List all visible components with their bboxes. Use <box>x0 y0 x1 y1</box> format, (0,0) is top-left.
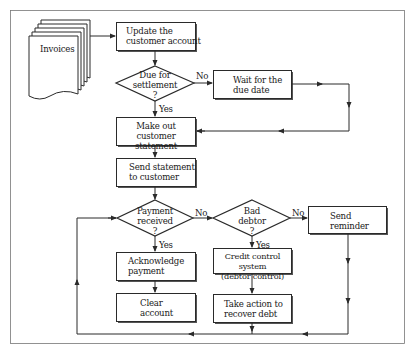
bad-debtor-label: Bad debtor ? <box>222 206 282 236</box>
payment-no-label: No <box>195 208 207 218</box>
make-statement-label: Make out customer statement <box>117 121 195 151</box>
credit-control-label: Credit control system (debtor control) <box>212 251 293 281</box>
invoices-label: Invoices <box>40 44 74 54</box>
bad-yes-label: Yes <box>256 240 270 250</box>
take-action-label: Take action to recover debt <box>224 299 283 319</box>
clear-account-label: Clear account <box>140 298 173 318</box>
due-yes-label: Yes <box>159 104 173 114</box>
wait-due-date-label: Wait for the due date <box>233 75 282 95</box>
update-account-label: Update the customer account <box>126 26 201 46</box>
invoices-document-icon <box>29 20 90 99</box>
due-no-label: No <box>196 71 208 81</box>
payment-yes-label: Yes <box>159 240 173 250</box>
send-statement-label: Send statement to customer <box>129 162 195 182</box>
send-reminder-label: Send reminder <box>330 211 369 231</box>
acknowledge-payment-label: Acknowledge payment <box>128 256 184 276</box>
bad-no-label: No <box>292 208 304 218</box>
due-settlement-label: Due for settlement ? <box>125 70 185 100</box>
payment-received-label: Payment received ? <box>125 206 185 236</box>
